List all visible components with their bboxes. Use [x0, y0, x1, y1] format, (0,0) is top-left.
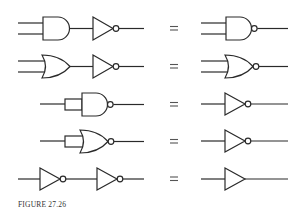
equals-sign-row-5: [170, 177, 178, 181]
nor-gate-icon: [80, 130, 108, 153]
and-gate-icon: [43, 17, 70, 40]
nor-gate-icon: [225, 55, 253, 78]
nand-gate-icon: [226, 17, 252, 40]
equals-sign-row-1: [170, 27, 178, 31]
equals-sign-row-4: [170, 140, 178, 144]
equals-sign-row-2: [170, 65, 178, 69]
inverter-icon: [40, 168, 60, 190]
row-3-right-not: [201, 93, 288, 115]
row-2-right-nor: [201, 55, 288, 78]
inverter-icon: [225, 93, 245, 115]
nand-gate-icon: [82, 93, 108, 116]
row-2-left-or-not: [18, 55, 144, 78]
row-4-right-not: [201, 130, 288, 152]
row-3-left-tied-nand: [40, 93, 144, 116]
row-1-left-and-not: [18, 17, 144, 40]
row-5-right-buffer: [201, 168, 288, 190]
inverter-icon: [97, 168, 117, 190]
figure-caption: FIGURE 27.26: [18, 200, 66, 209]
or-gate-icon: [42, 55, 70, 78]
buffer-icon: [225, 168, 245, 190]
inverter-icon: [93, 17, 113, 40]
inverter-icon: [93, 55, 113, 78]
row-5-left-double-not: [18, 168, 144, 190]
inverter-icon: [225, 130, 245, 152]
row-1-right-nand: [201, 17, 288, 40]
logic-equivalence-diagram: [0, 0, 302, 213]
equals-sign-row-3: [170, 103, 178, 107]
row-4-left-tied-nor: [40, 130, 144, 153]
